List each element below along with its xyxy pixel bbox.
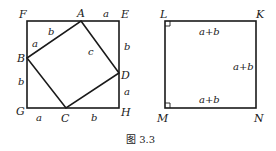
label-AE: a (103, 8, 109, 19)
vertex-A: A (76, 7, 85, 20)
vertex-G: G (16, 105, 25, 118)
vertex-L: L (159, 8, 167, 21)
inner-square-ABCD (27, 21, 119, 108)
label-inner-side-c: c (88, 46, 94, 57)
left-square-diagram: F A E B D G C H a b a b a b a b c (16, 7, 131, 125)
vertex-H: H (120, 106, 131, 119)
label-right-side: a+b (233, 61, 254, 72)
label-DH: a (124, 86, 130, 97)
figure-caption: 图 3.3 (126, 134, 155, 145)
outer-square-FEHG (27, 21, 119, 108)
label-HC: b (91, 112, 97, 123)
vertex-N: N (253, 112, 264, 125)
label-GB: b (18, 76, 24, 87)
label-ED: b (124, 41, 130, 52)
right-square-diagram: L K M N a+b a+b a+b (156, 8, 265, 125)
vertex-E: E (120, 8, 129, 21)
label-CG: a (36, 112, 42, 123)
vertex-K: K (255, 8, 265, 21)
vertex-D: D (120, 69, 130, 82)
label-bottom-side: a+b (199, 94, 220, 105)
vertex-B: B (16, 52, 25, 65)
label-top-side: a+b (199, 26, 220, 37)
vertex-C: C (61, 112, 70, 125)
label-FA: b (48, 26, 54, 37)
vertex-F: F (18, 8, 27, 21)
figure-canvas: F A E B D G C H a b a b a b a b c L K M … (0, 0, 276, 151)
label-BF: a (32, 38, 38, 49)
vertex-M: M (156, 112, 169, 125)
